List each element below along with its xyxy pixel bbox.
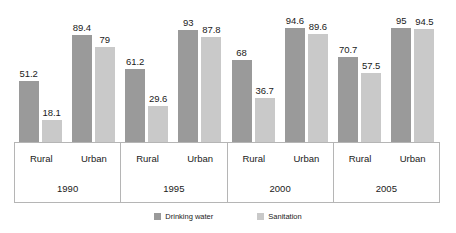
bar-chart: 51.218.189.47961.229.69387.86836.794.689… <box>0 0 456 233</box>
bar-value-label: 68 <box>219 47 265 58</box>
axis-area-label-rural: Rural <box>121 153 174 164</box>
axis-area-row: RuralUrban <box>334 143 439 174</box>
bar-value-label: 61.2 <box>112 56 158 67</box>
bar-subgroup-1990-urban: 89.479 <box>70 0 118 142</box>
bar-2000-rural-sanitation[interactable] <box>255 98 275 142</box>
bar-2000-urban-drinking-water[interactable] <box>285 28 305 142</box>
bar-subgroup-2000-rural: 6836.7 <box>230 0 278 142</box>
axis-year-label-2005: 2005 <box>376 183 397 194</box>
axis-year-block-2005: RuralUrban2005 <box>334 143 439 202</box>
axis-area-row: RuralUrban <box>121 143 226 174</box>
bar-value-label: 36.7 <box>242 85 288 96</box>
axis-year-row: 1995 <box>121 174 226 202</box>
bar-subgroup-2005-urban: 9594.5 <box>389 0 437 142</box>
category-axis-table: RuralUrban1990RuralUrban1995RuralUrban20… <box>14 142 440 203</box>
bar-group-2000: 6836.794.689.6 <box>227 0 334 142</box>
axis-year-block-1990: RuralUrban1990 <box>15 143 121 202</box>
axis-area-label-urban: Urban <box>280 153 333 164</box>
legend-label: Drinking water <box>165 212 213 221</box>
bar-2005-urban-sanitation[interactable] <box>414 29 434 142</box>
axis-area-label-urban: Urban <box>386 153 439 164</box>
axis-area-label-rural: Rural <box>228 153 281 164</box>
axis-year-row: 1990 <box>15 174 120 202</box>
bar-value-label: 89.4 <box>59 22 105 33</box>
legend-label: Sanitation <box>268 212 301 221</box>
axis-area-label-rural: Rural <box>15 153 68 164</box>
bar-value-label: 57.5 <box>348 60 394 71</box>
axis-year-block-2000: RuralUrban2000 <box>228 143 334 202</box>
bar-subgroup-2005-rural: 70.757.5 <box>336 0 384 142</box>
axis-year-label-2000: 2000 <box>270 183 291 194</box>
bar-group-1990: 51.218.189.479 <box>14 0 121 142</box>
bar-1990-rural-sanitation[interactable] <box>42 120 62 142</box>
bar-1995-rural-drinking-water[interactable] <box>125 69 145 142</box>
bar-1995-urban-drinking-water[interactable] <box>178 30 198 142</box>
bar-value-label: 70.7 <box>325 44 371 55</box>
bar-value-label: 29.6 <box>135 93 181 104</box>
axis-year-label-1990: 1990 <box>57 183 78 194</box>
axis-area-label-rural: Rural <box>334 153 387 164</box>
legend-item-sanitation[interactable]: Sanitation <box>257 212 301 221</box>
bar-subgroup-1995-urban: 9387.8 <box>176 0 224 142</box>
bar-group-1995: 61.229.69387.8 <box>121 0 228 142</box>
bar-value-label: 18.1 <box>29 107 75 118</box>
axis-year-row: 2000 <box>228 174 333 202</box>
bar-2000-rural-drinking-water[interactable] <box>232 60 252 142</box>
axis-area-label-urban: Urban <box>68 153 121 164</box>
axis-year-row: 2005 <box>334 174 439 202</box>
bar-2005-urban-drinking-water[interactable] <box>391 28 411 142</box>
bar-subgroup-1995-rural: 61.229.6 <box>123 0 171 142</box>
axis-year-block-1995: RuralUrban1995 <box>121 143 227 202</box>
bar-subgroup-1990-rural: 51.218.1 <box>17 0 65 142</box>
axis-area-row: RuralUrban <box>228 143 333 174</box>
bar-1990-urban-drinking-water[interactable] <box>72 35 92 142</box>
bar-1995-rural-sanitation[interactable] <box>148 106 168 142</box>
legend-swatch-icon <box>257 213 264 220</box>
bar-group-2005: 70.757.59594.5 <box>334 0 441 142</box>
axis-area-label-urban: Urban <box>174 153 227 164</box>
chart-legend: Drinking waterSanitation <box>0 206 456 226</box>
bar-2005-rural-sanitation[interactable] <box>361 73 381 142</box>
bar-subgroup-2000-urban: 94.689.6 <box>283 0 331 142</box>
axis-year-label-1995: 1995 <box>163 183 184 194</box>
plot-area: 51.218.189.47961.229.69387.86836.794.689… <box>0 0 456 142</box>
legend-swatch-icon <box>154 213 161 220</box>
bar-value-label: 51.2 <box>6 68 52 79</box>
axis-area-row: RuralUrban <box>15 143 120 174</box>
bar-value-label: 94.5 <box>401 16 447 27</box>
legend-item-drinking-water[interactable]: Drinking water <box>154 212 213 221</box>
